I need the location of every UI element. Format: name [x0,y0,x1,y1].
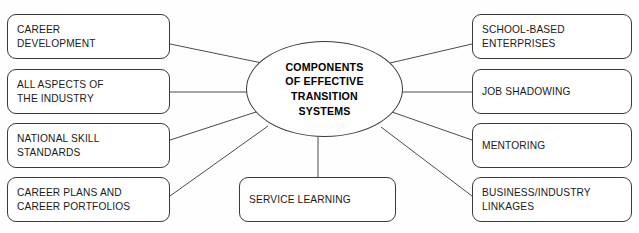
node-label-business-industry-linkages: BUSINESS/INDUSTRY LINKAGES [482,186,591,212]
diagram-canvas: COMPONENTS OF EFFECTIVE TRANSITION SYSTE… [0,0,639,233]
node-label-school-based-enterprises: SCHOOL-BASED ENTERPRISES [482,23,565,49]
node-service-learning[interactable]: SERVICE LEARNING [239,177,396,222]
connector-national-skill-standards [170,112,256,140]
node-label-job-shadowing: JOB SHADOWING [482,85,571,98]
node-label-mentoring: MENTORING [482,139,545,152]
node-label-service-learning: SERVICE LEARNING [249,193,351,206]
node-job-shadowing[interactable]: JOB SHADOWING [472,69,632,114]
node-label-career-plans-and-career-portfolios: CAREER PLANS AND CAREER PORTFOLIOS [17,186,130,212]
node-career-development[interactable]: CAREER DEVELOPMENT [7,14,170,59]
connector-school-based-enterprises [390,44,472,63]
node-mentoring[interactable]: MENTORING [472,123,632,168]
center-node-label: COMPONENTS OF EFFECTIVE TRANSITION SYSTE… [285,60,363,118]
node-school-based-enterprises[interactable]: SCHOOL-BASED ENTERPRISES [472,14,632,59]
connector-mentoring [392,112,472,140]
node-label-all-aspects-of-the-industry: ALL ASPECTS OF THE INDUSTRY [17,78,104,104]
node-national-skill-standards[interactable]: NATIONAL SKILL STANDARDS [7,123,170,168]
node-career-plans-and-career-portfolios[interactable]: CAREER PLANS AND CAREER PORTFOLIOS [7,177,170,222]
node-label-national-skill-standards: NATIONAL SKILL STANDARDS [17,132,100,158]
connector-career-development [170,44,262,63]
center-node-components-of-effective-transition-systems[interactable]: COMPONENTS OF EFFECTIVE TRANSITION SYSTE… [246,41,403,137]
node-all-aspects-of-the-industry[interactable]: ALL ASPECTS OF THE INDUSTRY [7,69,170,114]
node-business-industry-linkages[interactable]: BUSINESS/INDUSTRY LINKAGES [472,177,632,222]
node-label-career-development: CAREER DEVELOPMENT [17,23,96,49]
